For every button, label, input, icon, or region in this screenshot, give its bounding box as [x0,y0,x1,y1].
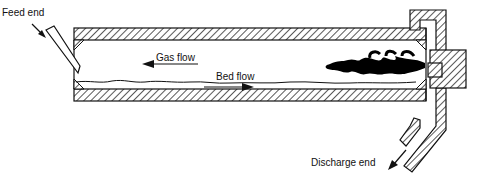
kiln-shell-bottom [74,89,426,101]
seal-ring [428,50,466,88]
discharge-chute [400,118,420,146]
burner-flame-tips [370,51,414,58]
feed-arrow-icon [32,24,46,38]
rotary-kiln-diagram [0,0,480,182]
burner-flame [326,56,425,75]
kiln-shell-top [74,28,426,40]
feed-end-label: Feed end [2,8,44,18]
gas-flow-label: Gas flow [156,53,195,63]
bed-flow-label: Bed flow [216,72,254,82]
discharge-arrow-icon [388,150,406,170]
discharge-end-label: Discharge end [311,158,375,168]
